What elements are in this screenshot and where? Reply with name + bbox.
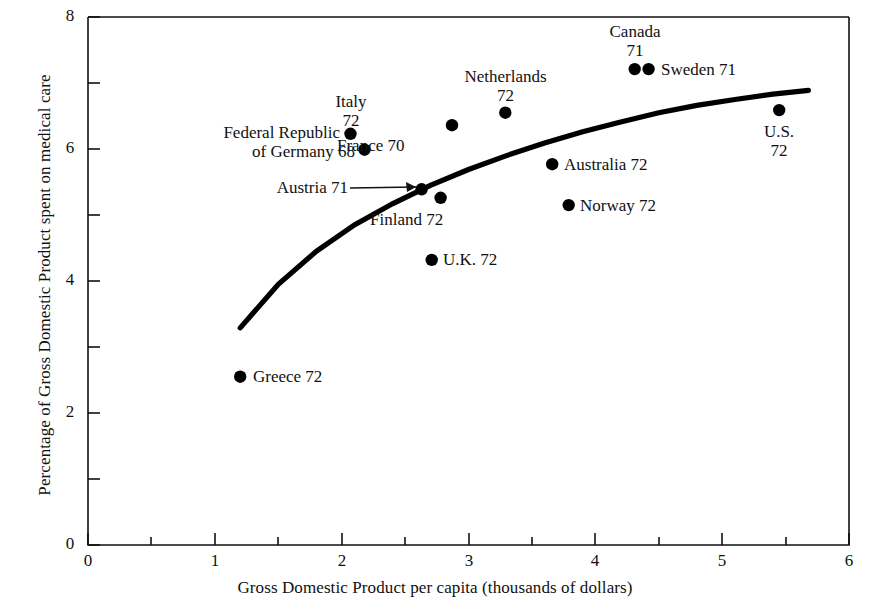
label-austria: Austria 71 [180, 178, 348, 197]
point-canada[interactable] [629, 63, 641, 75]
y-axis-title: Percentage of Gross Domestic Product spe… [35, 5, 55, 565]
y-tick-6: 6 [58, 138, 82, 158]
x-tick-5: 5 [710, 551, 734, 571]
y-tick-2: 2 [58, 402, 82, 422]
y-axis-title-wrapper: Percentage of Gross Domestic Product spe… [35, 5, 59, 565]
point-sweden[interactable] [642, 63, 654, 75]
point-us[interactable] [773, 104, 785, 116]
point-australia[interactable] [546, 158, 558, 170]
chart-figure: 8 6 4 2 0 0 1 2 3 4 5 6 Gross Domestic P… [0, 0, 870, 612]
label-netherlands-name: Netherlands [433, 67, 578, 86]
point-finland[interactable] [434, 192, 446, 204]
austria-leader-line [350, 182, 416, 192]
point-uk[interactable] [426, 254, 438, 266]
x-tick-4: 4 [583, 551, 607, 571]
label-germany-line1: Federal Republic [108, 123, 340, 142]
x-tick-6: 6 [837, 551, 861, 571]
label-finland: Finland 72 [370, 210, 443, 229]
x-tick-1: 1 [203, 551, 227, 571]
label-us-name: U.S. [739, 122, 819, 141]
label-australia: Australia 72 [564, 155, 648, 174]
y-axis-ticks [88, 17, 100, 545]
label-greece: Greece 72 [253, 367, 322, 386]
label-norway: Norway 72 [580, 196, 656, 215]
x-tick-2: 2 [330, 551, 354, 571]
label-canada-year: 71 [585, 41, 685, 60]
label-italy-name: Italy [311, 92, 391, 111]
label-us-year: 72 [739, 141, 819, 160]
label-france: France 70 [337, 136, 405, 155]
point-netherlands[interactable] [499, 107, 511, 119]
point-france[interactable] [446, 119, 458, 131]
y-tick-4: 4 [58, 270, 82, 290]
point-austria[interactable] [415, 183, 427, 195]
label-canada-name: Canada [585, 22, 685, 41]
x-tick-0: 0 [76, 551, 100, 571]
x-axis-title: Gross Domestic Product per capita (thous… [0, 578, 870, 598]
point-greece[interactable] [234, 371, 246, 383]
label-sweden: Sweden 71 [661, 60, 736, 79]
x-axis-ticks [88, 533, 849, 545]
y-tick-8: 8 [58, 6, 82, 26]
label-uk: U.K. 72 [443, 250, 497, 269]
label-netherlands-year: 72 [433, 86, 578, 105]
point-norway[interactable] [563, 199, 575, 211]
label-germany-line2: of Germany 68 [108, 142, 355, 161]
x-tick-3: 3 [457, 551, 481, 571]
